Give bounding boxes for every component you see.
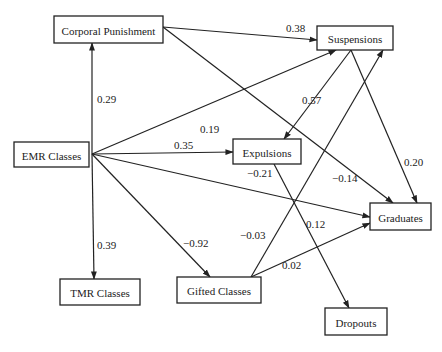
- edge-label-corporal-to-suspensions: 0.38: [286, 22, 306, 34]
- edge-label-emr-to-graduates: −0.21: [247, 167, 272, 179]
- node-label: Gifted Classes: [187, 285, 251, 297]
- edge-gifted-to-graduates: [251, 223, 370, 277]
- edge-label-suspensions-to-expulsions: 0.57: [302, 94, 322, 106]
- edge-expulsions-to-dropouts: [274, 164, 349, 308]
- edge-emr-to-graduates: [92, 154, 370, 217]
- node-gifted: Gifted Classes: [177, 277, 261, 303]
- edge-label-expulsions-to-dropouts: 0.12: [306, 218, 325, 230]
- edge-line: [163, 27, 393, 203]
- edge-label-suspensions-to-graduates: 0.20: [404, 156, 424, 168]
- node-graduates: Graduates: [370, 203, 431, 230]
- node-label: EMR Classes: [22, 150, 82, 162]
- edge-label-emr-to-corporal: 0.29: [97, 93, 117, 105]
- edge-label-emr-to-tmr: 0.39: [97, 239, 117, 251]
- edge-line: [274, 164, 349, 308]
- node-label: Graduates: [378, 212, 423, 224]
- path-diagram: Corporal PunishmentSuspensionsEMR Classe…: [0, 0, 442, 352]
- edge-corporal-to-graduates: [163, 27, 393, 203]
- edge-emr-to-expulsions: [92, 152, 233, 154]
- node-expulsions: Expulsions: [233, 139, 301, 164]
- edge-label-emr-to-expulsions: 0.35: [174, 139, 194, 151]
- edge-line: [92, 152, 233, 154]
- edge-line: [92, 154, 210, 277]
- node-emr: EMR Classes: [14, 142, 89, 167]
- edge-label-gifted-to-graduates: 0.02: [282, 259, 301, 271]
- node-label: Dropouts: [336, 317, 377, 329]
- node-dropouts: Dropouts: [325, 308, 387, 335]
- node-label: Suspensions: [328, 33, 382, 45]
- edge-label-gifted-to-suspensions: −0.03: [240, 229, 266, 241]
- node-label: Expulsions: [243, 147, 292, 159]
- edge-label-corporal-to-graduates: −0.14: [332, 172, 358, 184]
- node-tmr: TMR Classes: [60, 279, 140, 305]
- edge-line: [92, 154, 370, 217]
- edge-line: [92, 154, 94, 279]
- node-corporal: Corporal Punishment: [54, 16, 163, 43]
- edge-emr-to-tmr: [92, 154, 94, 279]
- edge-label-emr-to-suspensions: 0.19: [200, 123, 220, 135]
- edge-line: [351, 50, 417, 203]
- edge-line: [251, 223, 370, 277]
- node-suspensions: Suspensions: [317, 26, 393, 50]
- node-label: TMR Classes: [70, 287, 130, 299]
- edge-suspensions-to-graduates: [351, 50, 417, 203]
- edge-label-emr-to-gifted: −0.92: [183, 237, 208, 249]
- edge-emr-to-gifted: [92, 154, 210, 277]
- node-label: Corporal Punishment: [62, 25, 156, 37]
